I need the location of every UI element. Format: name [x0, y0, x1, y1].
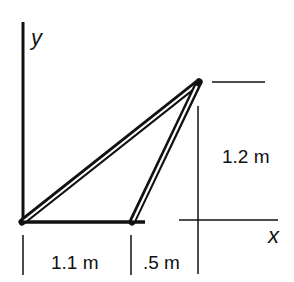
x-axis-label: x: [267, 223, 280, 248]
truss-diagram: y x 1.2 m 1.1 m .5 m: [0, 0, 294, 282]
base-right-label: .5 m: [143, 252, 180, 273]
base-left-label: 1.1 m: [51, 252, 99, 273]
short-strut: [132, 82, 199, 222]
height-label: 1.2 m: [222, 146, 270, 167]
long-strut: [22, 82, 199, 222]
y-axis-label: y: [29, 25, 44, 50]
